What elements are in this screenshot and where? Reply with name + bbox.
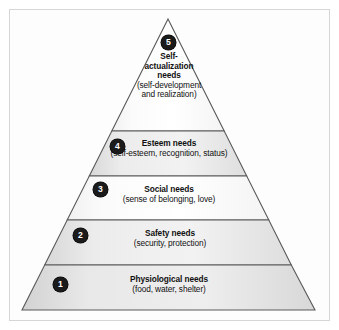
pyramid-tier-1-shape[interactable] — [22, 265, 315, 310]
pyramid-graphic — [0, 0, 339, 330]
pyramid-tier-2-shape[interactable] — [45, 220, 292, 265]
pyramid-tier-4-shape[interactable] — [89, 131, 246, 176]
pyramid-svg — [0, 0, 339, 330]
pyramid-tier-3-shape[interactable] — [67, 176, 269, 220]
maslow-pyramid-figure: Self- actualization needs (self-developm… — [0, 0, 339, 330]
pyramid-tier-5-shape[interactable] — [112, 19, 224, 131]
